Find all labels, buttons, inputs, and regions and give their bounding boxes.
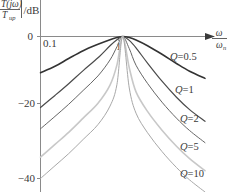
curve-q-1 (41, 36, 206, 121)
y-tick-label-minus20: −20 (18, 97, 36, 109)
x-tick-label-0-1: 0.1 (43, 37, 57, 49)
x-axis-numerator: ω (216, 28, 223, 38)
y-axis-unit: /dB (24, 4, 40, 16)
y-axis-label: T(jω) T up /dB (0, 0, 39, 21)
bode-magnitude-plot: T(jω) T up /dB 0 −20 −40 (0, 0, 241, 192)
axes (37, 0, 215, 192)
legend-label-4: Q=10 (180, 168, 204, 179)
legend-label-2: Q=2 (180, 113, 199, 124)
chart-page: T(jω) T up /dB 0 −20 −40 (0, 0, 241, 192)
x-axis-denominator: ω (216, 40, 223, 50)
legend-label-3: Q=5 (180, 141, 199, 152)
legend-label-0: Q=0.5 (170, 51, 197, 62)
y-axis-denominator: T (2, 10, 8, 20)
y-tick-label-minus40: −40 (18, 172, 36, 184)
x-axis-arrow-icon (205, 33, 215, 40)
y-tick-labels: 0 −20 −40 (18, 30, 36, 184)
legend-label-1: Q=1 (175, 84, 194, 95)
y-tick-label-0: 0 (28, 30, 34, 42)
y-axis-denominator-sub: up (9, 14, 16, 21)
y-axis-numerator: T(jω) (1, 0, 22, 10)
x-axis-denominator-sub: n (223, 44, 226, 51)
x-axis-label: ω ω n (212, 28, 227, 51)
